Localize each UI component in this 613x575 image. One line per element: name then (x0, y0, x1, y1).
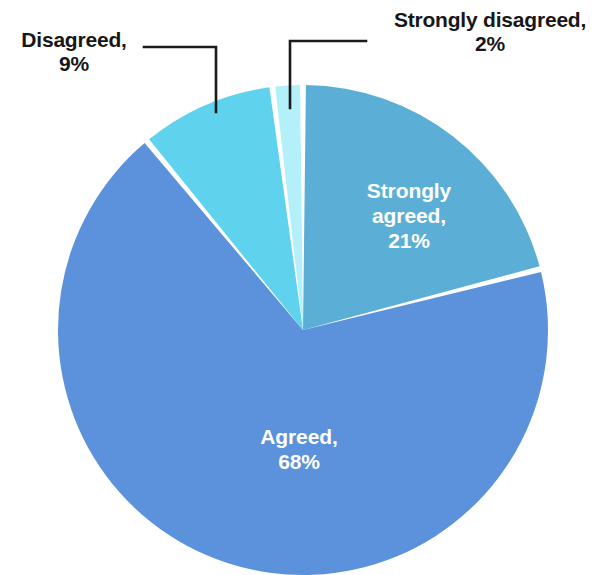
pie-slices (58, 85, 548, 575)
callout-strongly-disagreed-line1: Strongly disagreed, (372, 8, 608, 32)
slice-label-agreed-line2: 68% (228, 449, 370, 474)
callout-disagreed-line2: 9% (8, 52, 140, 76)
callout-disagreed-line1: Disagreed, (8, 28, 140, 52)
callout-disagreed: Disagreed, 9% (8, 28, 140, 76)
callout-strongly-disagreed-line2: 2% (372, 32, 608, 56)
slice-label-strongly-agreed-line3: 21% (338, 228, 480, 253)
leader-line-disagreed (144, 47, 216, 112)
pie-chart-canvas (0, 0, 613, 575)
slice-label-strongly-agreed: Strongly agreed, 21% (338, 178, 480, 254)
slice-label-agreed: Agreed, 68% (228, 424, 370, 474)
callout-strongly-disagreed: Strongly disagreed, 2% (372, 8, 608, 56)
slice-label-agreed-line1: Agreed, (228, 424, 370, 449)
slice-label-strongly-agreed-line1: Strongly (338, 178, 480, 203)
slice-label-strongly-agreed-line2: agreed, (338, 203, 480, 228)
pie-chart-figure: Disagreed, 9% Strongly disagreed, 2% Str… (0, 0, 613, 575)
